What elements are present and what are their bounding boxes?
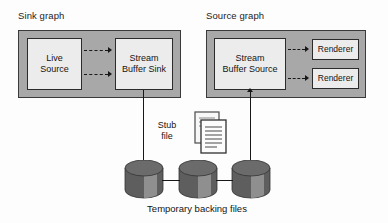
sink-to-backing-file-line <box>143 90 144 166</box>
sink-connector-bottom-arrowhead-icon <box>108 71 112 77</box>
sink-graph-title: Sink graph <box>18 10 64 21</box>
node-renderer-bottom[interactable]: Renderer <box>312 68 359 89</box>
node-stream-buffer-source[interactable]: Stream Buffer Source <box>214 38 286 90</box>
backing-file-3[interactable] <box>231 160 271 204</box>
backing-file-to-source-arrowhead-icon <box>247 88 253 92</box>
source-connector-bottom-arrowhead-icon <box>305 75 309 81</box>
sink-connector-top <box>84 50 108 51</box>
backing-file-to-source-line <box>250 90 251 166</box>
sink-connector-bottom <box>84 74 108 75</box>
node-live-source[interactable]: Live Source <box>27 38 82 90</box>
source-connector-top-arrowhead-icon <box>305 46 309 52</box>
document-stack-icon <box>188 111 232 161</box>
node-stream-buffer-sink[interactable]: Stream Buffer Sink <box>115 38 173 90</box>
backing-file-link-1 <box>162 180 180 181</box>
node-renderer-top[interactable]: Renderer <box>312 39 359 60</box>
backing-file-link-2 <box>216 180 233 181</box>
stub-file-label: Stub file <box>150 120 184 142</box>
diagram-canvas: Sink graph Live Source Stream Buffer Sin… <box>0 0 388 223</box>
backing-file-1[interactable] <box>124 160 164 204</box>
source-graph-title: Source graph <box>206 10 264 21</box>
source-connector-bottom <box>288 78 305 79</box>
sink-connector-top-arrowhead-icon <box>108 47 112 53</box>
source-connector-top <box>288 49 305 50</box>
temporary-backing-files-caption: Temporary backing files <box>112 203 282 214</box>
backing-file-2[interactable] <box>178 160 218 204</box>
